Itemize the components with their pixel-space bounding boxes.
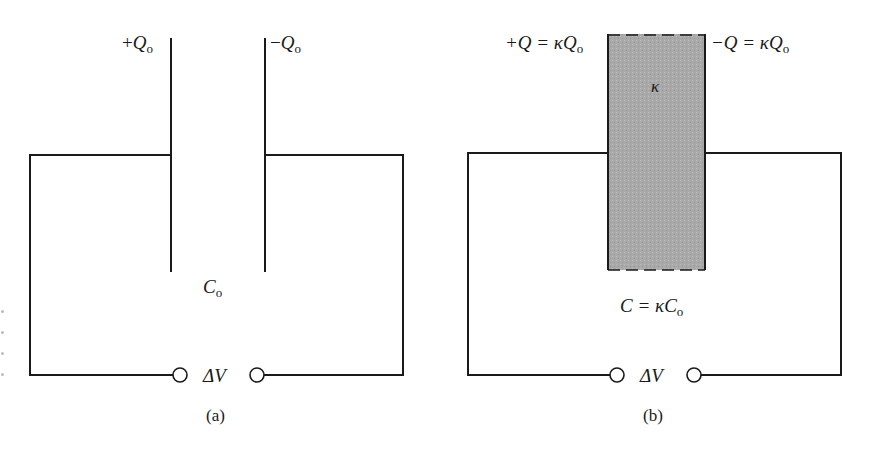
charge-symbol: Q <box>563 32 577 53</box>
panel-a-left-terminal <box>173 368 187 382</box>
charge-subscript: o <box>577 41 584 56</box>
charge-symbol: Q <box>133 32 147 53</box>
charge-subscript: o <box>294 41 301 56</box>
panel-b-capacitance-label: C = κCo <box>620 296 683 315</box>
panel-a-right-wire <box>263 155 403 375</box>
panel-a-right-charge-label: −Qo <box>270 33 301 52</box>
panel-b-left-wire <box>468 153 610 375</box>
capacitance-subscript: o <box>677 304 684 319</box>
charge-prefix: +Q = κ <box>505 32 563 53</box>
charge-subscript: o <box>146 41 153 56</box>
panel-a-right-terminal <box>250 368 264 382</box>
panel-b-left-charge-label: +Q = κQo <box>505 33 583 52</box>
capacitance-prefix: C = κ <box>620 295 664 316</box>
panel-b-right-charge-label: −Q = κQo <box>711 33 789 52</box>
capacitance-subscript: o <box>216 285 223 300</box>
panel-b-right-wire <box>700 153 841 375</box>
charge-prefix: −Q = κ <box>711 32 769 53</box>
charge-subscript: o <box>783 41 790 56</box>
capacitance-symbol: C <box>664 295 677 316</box>
charge-symbol: Q <box>769 32 783 53</box>
panel-b-voltage-label: ΔV <box>640 366 663 385</box>
circuit-diagram <box>0 0 870 460</box>
panel-a-capacitance-label: Co <box>203 277 222 296</box>
capacitance-symbol: C <box>203 276 216 297</box>
dielectric-slab <box>608 34 705 270</box>
panel-b-right-terminal <box>687 368 701 382</box>
panel-a-circuit <box>30 38 403 382</box>
charge-symbol: Q <box>281 32 295 53</box>
dielectric-constant-label: κ <box>651 78 659 95</box>
charge-sign: − <box>270 32 281 53</box>
panel-b-left-terminal <box>610 368 624 382</box>
panel-a-left-charge-label: +Qo <box>122 33 153 52</box>
page-edge-marks <box>0 310 6 390</box>
panel-a-caption: (a) <box>206 407 225 424</box>
panel-a-voltage-label: ΔV <box>203 366 226 385</box>
capacitor-dielectric-figure: +Qo −Qo Co ΔV (a) +Q = κQo −Q = κQo κ C … <box>0 0 870 460</box>
panel-b-caption: (b) <box>643 407 663 424</box>
panel-a-left-wire <box>30 155 173 375</box>
charge-sign: + <box>122 32 133 53</box>
